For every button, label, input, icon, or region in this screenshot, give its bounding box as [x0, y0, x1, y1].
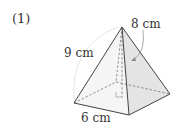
slant-height-label: 8 cm — [131, 18, 161, 30]
right-face — [122, 27, 170, 115]
lateral-edge-label: 9 cm — [64, 47, 94, 59]
base-edge-label: 6 cm — [81, 112, 111, 124]
